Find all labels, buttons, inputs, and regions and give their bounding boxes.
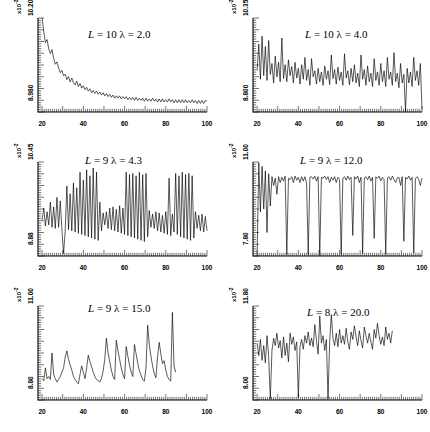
y-axis-max-label: 11.80 (242, 288, 249, 304)
x-tick-label: 20 (253, 120, 260, 127)
y-axis-min-label: 8.80 (27, 376, 34, 389)
y-axis-min-label: 8.980 (27, 85, 34, 101)
x-tick-label: 20 (38, 264, 45, 271)
y-axis-max-label: 11.00 (242, 144, 249, 160)
y-axis-exponent-label: x10-2 (13, 0, 25, 14)
x-tick-label: 60 (336, 408, 343, 415)
panel-title: L = 10 λ = 4.0 (305, 28, 367, 40)
y-exponent-base: x10 (231, 4, 237, 14)
x-axis-ticks (257, 106, 422, 112)
title-lambda-value: = 4.3 (116, 154, 141, 166)
x-tick-label: 20 (38, 120, 45, 127)
chart-panel-inner: x10-210.458.8820406080100L = 9 λ = 4.3 (0, 144, 215, 288)
title-L-value: = 8 (313, 306, 333, 318)
chart-panel-inner: x10-210.358.80020406080100L = 10 λ = 4.0 (215, 0, 430, 144)
y-axis-max-label: 10.45 (27, 144, 34, 160)
chart-panel-1: x10-210.208.98020406080100L = 10 λ = 2.0 (0, 0, 215, 144)
x-tick-label: 40 (80, 408, 87, 415)
figure-grid: x10-210.208.98020406080100L = 10 λ = 2.0… (0, 0, 430, 432)
title-L-value: = 9 (306, 154, 326, 166)
data-trace (42, 168, 207, 254)
title-lambda-value: = 20.0 (338, 306, 369, 318)
x-tick-label: 60 (121, 408, 128, 415)
data-trace (257, 315, 392, 399)
chart-panel-5: x10-211.008.8020406080100L = 9 λ = 15.0 (0, 288, 215, 432)
x-tick-label: 40 (80, 120, 87, 127)
chart-panel-3: x10-210.458.8820406080100L = 9 λ = 4.3 (0, 144, 215, 288)
x-tick-label: 80 (377, 264, 384, 271)
title-L-value: = 9 (91, 154, 111, 166)
x-tick-label: 40 (295, 408, 302, 415)
axis-spines (253, 162, 422, 256)
title-lambda-value: = 2.0 (125, 28, 150, 40)
y-exponent-power: -2 (13, 144, 19, 148)
y-axis-ticks (253, 306, 259, 400)
x-tick-label: 40 (295, 264, 302, 271)
x-tick-label: 80 (377, 120, 384, 127)
chart-panel-inner: x10-211.008.8020406080100L = 9 λ = 15.0 (0, 288, 215, 432)
y-axis-exponent-label: x10-2 (13, 118, 25, 158)
title-lambda-value: = 15.0 (119, 302, 150, 314)
x-tick-label: 60 (121, 264, 128, 271)
y-exponent-base: x10 (16, 148, 22, 158)
y-exponent-power: -2 (228, 0, 234, 4)
x-axis-ticks (257, 250, 422, 256)
y-axis-exponent-label: x10-2 (228, 0, 240, 14)
x-tick-label: 60 (336, 120, 343, 127)
y-axis-ticks (253, 18, 259, 112)
panel-title: L = 9 λ = 15.0 (88, 302, 150, 314)
y-axis-min-label: 7.80 (242, 232, 249, 245)
panel-title: L = 8 λ = 20.0 (307, 306, 369, 318)
title-lambda-value: = 12.0 (331, 154, 362, 166)
x-tick-label: 60 (121, 120, 128, 127)
y-axis-min-label: 8.800 (242, 85, 249, 101)
y-axis-max-label: 11.00 (27, 288, 34, 304)
y-exponent-base: x10 (231, 292, 237, 302)
title-lambda-value: = 4.0 (342, 28, 367, 40)
x-tick-label: 100 (417, 120, 428, 127)
y-axis-ticks (38, 162, 44, 256)
y-axis-exponent-label: x10-2 (228, 118, 240, 158)
title-L-value: = 10 (311, 28, 336, 40)
y-exponent-power: -2 (13, 288, 19, 292)
x-tick-label: 80 (377, 408, 384, 415)
x-tick-label: 100 (202, 264, 213, 271)
y-exponent-power: -2 (13, 0, 19, 4)
plot-area (0, 0, 215, 144)
x-tick-label: 80 (162, 408, 169, 415)
y-axis-exponent-label: x10-2 (228, 262, 240, 302)
chart-panel-2: x10-210.358.80020406080100L = 10 λ = 4.0 (215, 0, 430, 144)
x-axis-ticks (42, 394, 207, 400)
axis-spines (253, 306, 422, 400)
x-tick-label: 80 (162, 264, 169, 271)
y-axis-min-label: 8.88 (27, 232, 34, 245)
y-exponent-base: x10 (16, 292, 22, 302)
x-tick-label: 80 (162, 120, 169, 127)
chart-panel-inner: x10-211.808.0020406080100L = 8 λ = 20.0 (215, 288, 430, 432)
data-trace (42, 312, 176, 383)
axis-spines (38, 306, 207, 400)
x-tick-label: 100 (202, 408, 213, 415)
chart-panel-6: x10-211.808.0020406080100L = 8 λ = 20.0 (215, 288, 430, 432)
x-axis-ticks (257, 394, 422, 400)
x-tick-label: 20 (253, 264, 260, 271)
data-trace (257, 36, 422, 112)
x-tick-label: 100 (202, 120, 213, 127)
panel-title: L = 9 λ = 4.3 (85, 154, 142, 166)
x-tick-label: 20 (253, 408, 260, 415)
x-tick-label: 100 (417, 408, 428, 415)
x-tick-label: 40 (80, 264, 87, 271)
chart-panel-inner: x10-211.007.8020406080100L = 9 λ = 12.0 (215, 144, 430, 288)
x-tick-label: 20 (38, 408, 45, 415)
panel-title: L = 9 λ = 12.0 (300, 154, 362, 166)
x-tick-label: 100 (417, 264, 428, 271)
y-axis-max-label: 10.20 (27, 0, 34, 16)
y-axis-min-label: 8.00 (242, 376, 249, 389)
title-L-value: = 9 (94, 302, 114, 314)
y-exponent-base: x10 (231, 148, 237, 158)
data-trace (257, 163, 422, 256)
chart-panel-inner: x10-210.208.98020406080100L = 10 λ = 2.0 (0, 0, 215, 144)
x-axis-ticks (42, 250, 207, 256)
plot-area (215, 0, 430, 144)
y-exponent-power: -2 (228, 288, 234, 292)
